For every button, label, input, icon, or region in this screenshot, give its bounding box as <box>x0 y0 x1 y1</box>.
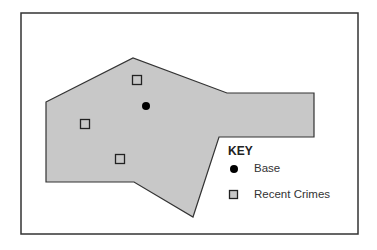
legend-crime-icon <box>230 191 238 199</box>
legend-base-icon <box>230 165 238 173</box>
legend-crimes-label: Recent Crimes <box>254 188 330 200</box>
base-marker-icon <box>142 102 150 110</box>
map-canvas <box>0 0 377 250</box>
crime-marker-icon <box>116 155 125 164</box>
crime-marker-icon <box>133 76 142 85</box>
crime-marker-icon <box>81 120 90 129</box>
legend-title: KEY <box>228 144 253 158</box>
legend-base-label: Base <box>254 162 280 174</box>
